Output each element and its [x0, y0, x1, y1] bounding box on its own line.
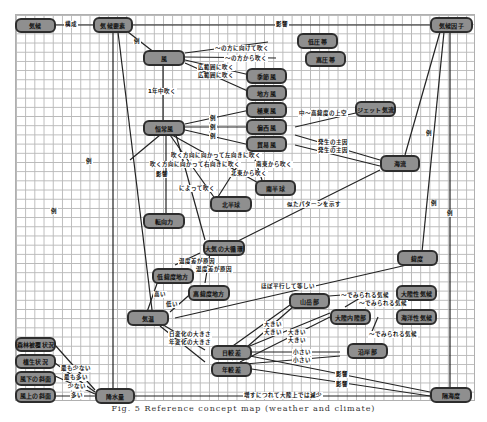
node-jet-kiryu[interactable]: ジェット気流 — [355, 101, 396, 117]
edge-label-nanto-kara: 南東から吹く — [255, 161, 293, 168]
node-kion[interactable]: 気温 — [127, 310, 169, 326]
node-koatsutai[interactable]: 高圧帯 — [305, 51, 346, 67]
edge-label-rei-right-2: 例 — [430, 200, 438, 207]
edge-label-hoko-mukete: ～の方に向けて吹く — [214, 45, 270, 52]
edge-label-chiisai-2: 小さい — [292, 357, 312, 364]
edge-label-rei-right-3: 例 — [446, 210, 454, 217]
node-ko-ido[interactable]: 高緯度地方 — [188, 285, 230, 301]
edge-label-hassei-1: 発生の主因 — [317, 139, 349, 146]
node-engan[interactable]: 沿岸部 — [347, 343, 388, 359]
node-tairiku-naibu[interactable]: 大陸内陸部 — [330, 309, 371, 325]
edge-label-ichinenju: 1年中吹く — [147, 88, 177, 95]
edge-label-hoko-kara: ～の方から吹く — [224, 55, 268, 62]
node-kazashita[interactable]: 風下の斜面 — [15, 371, 56, 386]
edge-label-rei-left: 例 — [85, 158, 93, 165]
edge-label-nichi-henka: 日変化の大きさ — [168, 331, 212, 338]
node-tei-ido[interactable]: 低緯度地方 — [152, 268, 194, 284]
node-kazakami[interactable]: 風上の斜面 — [15, 388, 56, 403]
node-minami-hankyu[interactable]: 南半球 — [255, 180, 296, 196]
node-kyokutofu[interactable]: 極東風 — [246, 102, 287, 118]
node-chihofu[interactable]: 地方風 — [246, 85, 287, 101]
edge-label-chu-ko-ido: 中～高緯度の上空 — [298, 110, 348, 117]
edge-label-takai: 高い — [153, 291, 167, 298]
node-henseifu[interactable]: 偏西風 — [246, 119, 287, 135]
edge-label-mottomo-sukunai: 最も少ない — [60, 365, 92, 372]
edge-label-zoka-genshou: 増すにつれて大陸上では減少 — [243, 392, 323, 399]
edge-label-oi: 多い — [70, 392, 84, 399]
node-kita-hankyu[interactable]: 北半球 — [210, 196, 252, 212]
node-shinrin[interactable]: 森林被覆状況 — [15, 337, 56, 352]
edge-label-hobo-heiko: ほぼ平行して等しい — [260, 283, 316, 290]
edge-label-rei-3: 例 — [209, 133, 217, 140]
concept-map-canvas: 気候 気候要素 気候因子 風 低圧帯 高圧帯 季節風 地方風 極東風 偏西風 貿… — [0, 0, 487, 422]
edge-label-ondo-sa-2: 温度差が原因 — [195, 266, 233, 273]
node-kaze[interactable]: 風 — [143, 50, 185, 66]
edge-label-mirareru-2: ～でみられる気候 — [358, 300, 408, 307]
edge-label-okii-3: 大きい — [287, 329, 307, 336]
edge-label-okii-2: 大きい — [263, 329, 283, 336]
node-tenkoryoku[interactable]: 転向力 — [143, 213, 185, 229]
edge-label-fuku-hoko-migi: 吹く方向に向かって右向きに吹く — [149, 161, 241, 168]
node-nichi-kakusa[interactable]: 日較差 — [211, 345, 252, 360]
node-taiki-daijunkan[interactable]: 大気の大循環 — [203, 240, 245, 256]
node-shokusei[interactable]: 植生状況 — [15, 354, 56, 369]
edge-label-sukunai: 少ない — [67, 383, 87, 390]
node-kosuiryo[interactable]: 降水量 — [95, 388, 135, 404]
edge-label-eikyo-3: 影響 — [335, 371, 349, 378]
edge-label-rei: 例 — [133, 38, 141, 45]
edge-label-kohani-2: 広範囲に吹く — [197, 72, 235, 79]
edge-label-rei-1: 例 — [209, 115, 217, 122]
edge-label-hokuto-kara: 北東から吹く — [230, 170, 268, 177]
edge-label-eikyo-4: 影響 — [335, 381, 349, 388]
edge-label-okii-1: 大きい — [263, 321, 283, 328]
edge-label-eikyo-2: 影響 — [155, 171, 169, 178]
edge-label-rei-left-2: 例 — [50, 208, 58, 215]
node-sangakubu[interactable]: 山岳部 — [289, 293, 330, 309]
node-kairyu[interactable]: 海流 — [380, 155, 420, 172]
edge-label-mirareru-3: ～でみられる気候 — [368, 331, 418, 338]
figure-caption: Fig. 5 Reference concept map (weather an… — [0, 404, 487, 413]
edge-label-nen-henka: 年変化の大きさ — [168, 339, 212, 346]
edge-label-mottomo-oi: 最も多い — [63, 374, 89, 381]
edge-label-okii-4: 大きい — [287, 337, 307, 344]
node-kiko[interactable]: 気候 — [15, 18, 56, 33]
edge-label-mirareru-1: ～でみられる気候 — [340, 292, 390, 299]
node-kaiyodo[interactable]: 隔海度 — [430, 387, 472, 403]
node-kaiyosei[interactable]: 海洋性気候 — [396, 309, 437, 325]
edge-label-eikyo: 影響 — [275, 21, 289, 28]
node-ido[interactable]: 緯度 — [397, 250, 438, 266]
node-kiko-inshi[interactable]: 気候因子 — [430, 17, 473, 33]
edge-label-hikui: 低い — [165, 301, 179, 308]
node-boekifu[interactable]: 貿易風 — [246, 136, 287, 152]
edge-label-kohani-1: 広範囲に吹く — [197, 64, 235, 71]
node-kiko-yoso[interactable]: 気候要素 — [93, 17, 133, 33]
node-kisetsufu[interactable]: 季節風 — [246, 68, 287, 84]
edge-label-niyotte: によって吹く — [178, 185, 216, 192]
node-teishoku[interactable]: 恒常風 — [143, 120, 185, 136]
edge-label-rei-2: 例 — [209, 124, 217, 131]
edge-label-fuku-hoko-hidari: 吹く方向に向かって左向きに吹く — [170, 152, 262, 159]
edge-label-kosei: 構成 — [64, 21, 78, 28]
node-nen-kakusa[interactable]: 年較差 — [211, 362, 252, 377]
edge-label-chiisai-1: 小さい — [292, 349, 312, 356]
edge-label-rei-right: 例 — [425, 130, 433, 137]
edge-label-niru-pattern: 似たパターンを示す — [286, 201, 342, 208]
node-tairikusei[interactable]: 大陸性気候 — [396, 285, 437, 301]
node-teiatsutai[interactable]: 低圧帯 — [297, 33, 338, 49]
edge-label-ondo-sa-1: 温度差が原因 — [178, 258, 216, 265]
edge-label-hassei-2: 発生の主因 — [317, 147, 349, 154]
